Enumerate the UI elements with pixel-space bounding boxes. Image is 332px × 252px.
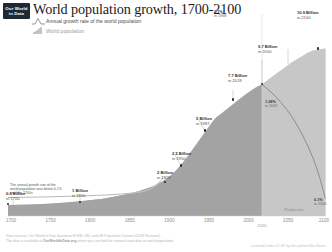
- xtick-1850: 1850: [125, 218, 135, 223]
- growth-rate-note-line-3: until the 1700s: [10, 191, 62, 195]
- callout-2050: 9.7 Billion in 2050: [258, 45, 277, 54]
- footer-link[interactable]: OurWorldInData.org: [43, 239, 76, 243]
- population-area-projected: [262, 49, 325, 216]
- callout-2100-year: in 2100: [297, 16, 319, 21]
- callout-1800-year: in 1800: [72, 194, 88, 199]
- xtick-1950: 1950: [204, 218, 214, 223]
- callout-2019: 7.7 Billion in 2019: [228, 74, 247, 83]
- footer-line-2: The data is available at OurWorldInData.…: [6, 239, 326, 244]
- callout-1950: 2.5 Billion in 1950: [172, 152, 191, 161]
- callout-1987: 5 Billion in 1987: [196, 117, 212, 126]
- footer-line-2-post: where you can find the research and data…: [76, 239, 174, 243]
- callout-1700-year: in 1700: [6, 197, 25, 202]
- callout-2100: 10.9 Billion in 2100: [297, 11, 319, 20]
- callout-current-growth-rate: 1.08% in 2019: [265, 100, 277, 109]
- peak-rate-year: in 1968: [214, 14, 226, 18]
- datapoint-2019: [232, 98, 234, 100]
- callout-2019-year: in 2019: [228, 79, 247, 84]
- callout-projected-growth-rate: 0.1% in 2100: [314, 198, 326, 207]
- projection-year-label: 2020: [257, 223, 266, 228]
- xtick-2100: 2100: [319, 218, 329, 223]
- chart-screenshot: Our World in Data World population growt…: [0, 0, 332, 252]
- callout-1950-year: in 1950: [172, 157, 191, 162]
- datapoint-1950: [180, 164, 182, 166]
- footer-line-2-pre: The data is available at: [6, 239, 43, 243]
- projected-rate-year: in 2100: [314, 202, 326, 206]
- chart-footer: Data sources: Our World in Data based on…: [6, 234, 326, 243]
- population-area-modern: [216, 84, 262, 216]
- xtick-2050: 2050: [283, 218, 293, 223]
- callout-1987-year: in 1987: [196, 122, 212, 127]
- current-rate-year: in 2019: [265, 104, 277, 108]
- xtick-1750: 1750: [45, 218, 55, 223]
- callout-2050-year: in 2050: [258, 50, 277, 55]
- xtick-1800: 1800: [85, 218, 95, 223]
- callout-1928: 2 Billion in 1928: [157, 171, 173, 180]
- datapoint-1800: [79, 201, 81, 203]
- xtick-1700: 1700: [6, 218, 16, 223]
- xtick-1900: 1900: [164, 218, 174, 223]
- datapoint-1987: [204, 129, 206, 131]
- growth-rate-note: The annual growth rate of the world popu…: [10, 183, 62, 195]
- callout-peak-growth-rate: 2.1% in 1968: [214, 10, 226, 19]
- chart-plot-area: [0, 0, 332, 252]
- projection-label: Projection: [284, 207, 304, 212]
- callout-1928-year: in 1928: [157, 176, 173, 181]
- callout-1800: 1 Billion in 1800: [72, 189, 88, 198]
- xtick-2000: 2000: [243, 218, 253, 223]
- license-text: Licensed under CC-BY by the authors Max …: [251, 244, 326, 248]
